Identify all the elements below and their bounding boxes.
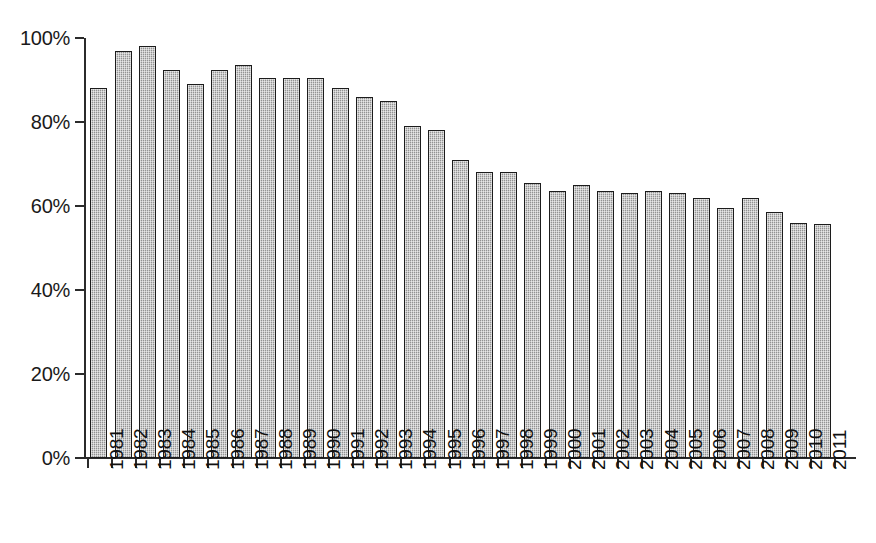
x-tick-label: 1992 xyxy=(372,429,391,470)
y-tick-label: 0% xyxy=(0,448,70,468)
y-tick-label: 60% xyxy=(0,196,70,216)
x-tick-label: 1995 xyxy=(445,429,464,470)
y-tick-mark xyxy=(75,37,84,39)
x-tick-label: 1994 xyxy=(420,429,439,470)
plot-area xyxy=(84,38,852,458)
x-tick-label: 2009 xyxy=(782,429,801,470)
x-tick-label: 1991 xyxy=(348,429,367,470)
bar xyxy=(380,101,397,458)
bar xyxy=(163,70,180,459)
x-tick-label: 2004 xyxy=(662,429,681,470)
bar xyxy=(573,185,590,458)
bar xyxy=(187,84,204,458)
x-tick-label: 1984 xyxy=(179,429,198,470)
x-tick-label: 2005 xyxy=(686,429,705,470)
x-tick-label: 2002 xyxy=(613,429,632,470)
x-tick-label: 2008 xyxy=(758,429,777,470)
bar xyxy=(597,191,614,458)
bar xyxy=(139,46,156,458)
bar xyxy=(524,183,541,458)
x-tick-label: 2006 xyxy=(710,429,729,470)
bar xyxy=(259,78,276,458)
bar-chart: 0%20%40%60%80%100% 198119821983198419851… xyxy=(0,0,876,543)
bar xyxy=(500,172,517,458)
x-tick-label: 1998 xyxy=(517,429,536,470)
bar xyxy=(404,126,421,458)
bar xyxy=(115,51,132,458)
x-tick-mark xyxy=(87,459,89,468)
y-tick-label: 80% xyxy=(0,112,70,132)
bar xyxy=(90,88,107,458)
x-tick-label: 2003 xyxy=(637,429,656,470)
bar xyxy=(717,208,734,458)
x-tick-label: 1981 xyxy=(107,429,126,470)
y-tick-mark xyxy=(75,373,84,375)
bar xyxy=(476,172,493,458)
bar xyxy=(621,193,638,458)
y-tick-label: 20% xyxy=(0,364,70,384)
x-tick-label: 1989 xyxy=(300,429,319,470)
y-tick-label: 100% xyxy=(0,28,70,48)
x-tick-label: 1996 xyxy=(469,429,488,470)
x-tick-label: 1985 xyxy=(203,429,222,470)
x-tick-label: 1990 xyxy=(324,429,343,470)
bar xyxy=(211,70,228,459)
x-tick-label: 1982 xyxy=(131,429,150,470)
x-tick-label: 2001 xyxy=(589,429,608,470)
bar xyxy=(669,193,686,458)
y-tick-mark xyxy=(75,205,84,207)
x-tick-label: 1986 xyxy=(228,429,247,470)
x-tick-label: 1997 xyxy=(493,429,512,470)
x-tick-label: 2011 xyxy=(830,430,849,470)
bar xyxy=(742,198,759,458)
y-tick-mark xyxy=(75,457,84,459)
bar xyxy=(307,78,324,458)
x-tick-label: 2000 xyxy=(565,429,584,470)
bar xyxy=(766,212,783,458)
bar xyxy=(235,65,252,458)
bar xyxy=(356,97,373,458)
bar xyxy=(332,88,349,458)
x-tick-label: 1988 xyxy=(276,429,295,470)
bar xyxy=(790,223,807,458)
y-tick-mark xyxy=(75,289,84,291)
x-tick-label: 1987 xyxy=(252,429,271,470)
x-tick-label: 1983 xyxy=(155,429,174,470)
bar xyxy=(645,191,662,458)
y-tick-mark xyxy=(75,121,84,123)
bar xyxy=(452,160,469,458)
x-tick-label: 1999 xyxy=(541,429,560,470)
bar xyxy=(814,224,831,458)
bar xyxy=(428,130,445,458)
bar xyxy=(283,78,300,458)
bar xyxy=(549,191,566,458)
x-tick-label: 1993 xyxy=(396,429,415,470)
bar xyxy=(693,198,710,458)
x-tick-label: 2010 xyxy=(806,429,825,470)
x-tick-label: 2007 xyxy=(734,429,753,470)
y-tick-label: 40% xyxy=(0,280,70,300)
